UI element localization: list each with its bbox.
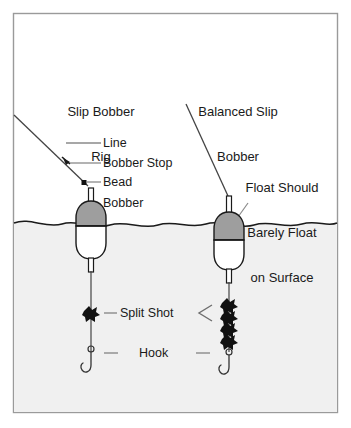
label-bead: Bead — [103, 175, 132, 189]
bobber-body-bottom-left — [76, 226, 106, 259]
callout-float-note: Float Should Barely Float on Surface — [227, 150, 337, 315]
label-bobber: Bobber — [103, 196, 143, 210]
label-line: Line — [103, 136, 127, 150]
fishing-rig-diagram: Slip Bobber Rig Balanced Slip Bobber Flo… — [0, 0, 351, 428]
title-slip-bobber-rig: Slip Bobber Rig — [46, 74, 156, 194]
bobber-body-top-left — [76, 201, 106, 226]
float-note-line2: Barely Float — [227, 225, 337, 240]
title-left-line1: Slip Bobber — [46, 104, 156, 119]
label-split-shot: Split Shot — [120, 306, 174, 320]
title-right-line1: Balanced Slip — [180, 104, 296, 119]
bobber-stem-bottom-left — [89, 258, 94, 272]
label-hook: Hook — [139, 346, 168, 360]
label-bobber-stop: Bobber Stop — [103, 156, 173, 170]
float-note-line1: Float Should — [227, 180, 337, 195]
float-note-line3: on Surface — [227, 270, 337, 285]
